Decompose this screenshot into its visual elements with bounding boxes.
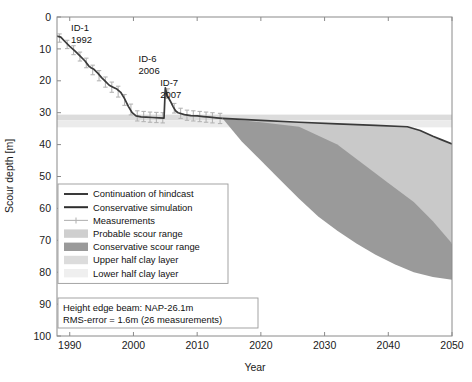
series-line — [57, 36, 223, 118]
annotation-id: ID-7 — [160, 77, 178, 88]
legend-item-label: Continuation of hindcast — [93, 188, 194, 199]
chart-legend: Continuation of hindcastConservative sim… — [58, 184, 228, 283]
legend-item-label: Probable scour range — [93, 228, 183, 239]
y-tick-label: 80 — [39, 266, 51, 278]
x-tick-label: 2000 — [122, 339, 146, 351]
y-tick-label: 90 — [39, 298, 51, 310]
y-tick-label: 10 — [39, 43, 51, 55]
x-tick-label: 1990 — [58, 339, 82, 351]
legend-patch-swatch — [64, 229, 88, 237]
measurement-errorbars — [57, 34, 222, 124]
x-tick-label: 2010 — [185, 339, 209, 351]
y-tick-label: 100 — [33, 330, 51, 342]
x-tick-label: 2030 — [313, 339, 337, 351]
y-tick-label: 20 — [39, 74, 51, 86]
legend-item-label: Conservative scour range — [93, 241, 200, 252]
legend-patch-swatch — [64, 269, 88, 277]
legend-item-label: Measurements — [93, 215, 155, 226]
y-axis-title: Scour depth [m] — [3, 139, 15, 213]
y-tick-label: 30 — [39, 106, 51, 118]
x-axis-title: Year — [244, 361, 266, 373]
annotation-year: 2006 — [139, 65, 160, 76]
x-tick-label: 2050 — [440, 339, 464, 351]
id-annotations: ID-11992ID-62006ID-72007 — [71, 22, 181, 99]
y-tick-label: 0 — [45, 11, 51, 23]
scour-range-bands — [223, 118, 452, 279]
info-box: Height edge beam: NAP-26.1mRMS-error = 1… — [58, 298, 258, 328]
annotation-id: ID-1 — [71, 22, 89, 33]
y-tick-label: 50 — [39, 170, 51, 182]
y-tick-label: 60 — [39, 202, 51, 214]
x-tick-label: 2040 — [377, 339, 401, 351]
legend-patch-swatch — [64, 243, 88, 251]
legend-item-label: Conservative simulation — [93, 202, 193, 213]
x-tick-label: 2020 — [249, 339, 273, 351]
legend-item-label: Lower half clay layer — [93, 268, 178, 279]
annotation-year: 2007 — [160, 89, 181, 100]
annotation-id: ID-6 — [139, 53, 157, 64]
y-tick-label: 40 — [39, 138, 51, 150]
y-tick-label: 70 — [39, 234, 51, 246]
info-line-1: Height edge beam: NAP-26.1m — [63, 302, 193, 313]
legend-item-label: Upper half clay layer — [93, 254, 178, 265]
info-line-2: RMS-error = 1.6m (26 measurements) — [63, 314, 222, 325]
legend-patch-swatch — [64, 256, 88, 264]
annotation-year: 1992 — [71, 34, 92, 45]
scour-depth-chart: 1990200020102020203020402050010203040506… — [0, 0, 472, 382]
chart-root: 1990200020102020203020402050010203040506… — [0, 0, 472, 382]
